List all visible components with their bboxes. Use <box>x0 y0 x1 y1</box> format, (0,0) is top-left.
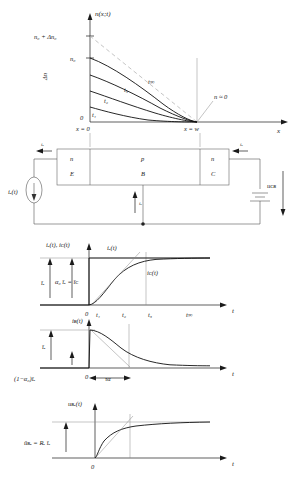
region-label-n-collector: n <box>211 155 214 162</box>
panel1-curve-label-2: t₃ <box>124 86 128 93</box>
current-source-left-arc <box>26 177 34 203</box>
panel1-curve-tinf <box>90 58 197 122</box>
figure-root: n(x;t) n₀ + Δn₀ n₀ 0 x = 0 x = w x n ≈ 0… <box>0 0 295 481</box>
collector-current-label: iₑ <box>240 142 243 147</box>
panel4-steady-label: (1−α₀)îₑ <box>14 375 35 383</box>
panel5-level-label: ûʙₑ = Rₑ îₑ <box>24 439 50 446</box>
panel5-y-axis-label: uʙₑ(t) <box>68 400 82 408</box>
terminal-label-b: B <box>141 170 145 177</box>
panel-carrier-profile: n(x;t) n₀ + Δn₀ n₀ 0 x = 0 x = w x n ≈ 0… <box>0 0 295 140</box>
panel5-x-arrow <box>220 456 227 461</box>
panel1-curve-label-1: t₂ <box>104 97 109 104</box>
panel1-ytick-label-0: n₀ + Δn₀ <box>34 33 56 40</box>
panel1-y-arrow <box>88 13 93 20</box>
panel1-y-axis-secondary-label: Δn <box>41 73 48 81</box>
panel3-curve-ic <box>89 258 210 305</box>
collector-current-arrow-head <box>232 149 239 154</box>
panel-base-current: iʙ(t) îₑ (1−α₀)îₑ τα 0 t <box>0 316 295 396</box>
panel3-ie-measure-head <box>48 258 53 265</box>
panel5-curve-ube <box>95 422 210 458</box>
panel4-y-arrow <box>87 319 92 326</box>
terminal-label-e: E <box>69 170 74 177</box>
panel4-x-axis-label: t <box>232 370 235 378</box>
panel3-curve-label-ic: iᴄ(t) <box>147 269 158 277</box>
panel1-curve-label-3: t∞ <box>148 78 155 85</box>
panel5-y-arrow <box>93 403 98 410</box>
panel1-ytick-label-2: 0 <box>80 114 84 121</box>
panel-base-emitter-voltage: uʙₑ(t) ûʙₑ = Rₑ îₑ 0 t <box>0 396 295 481</box>
panel5-x-axis-label: t <box>232 460 235 468</box>
panel1-xtick-label-0: x = 0 <box>75 125 91 132</box>
region-label-n-emitter: n <box>70 155 73 162</box>
current-source-arrow-head <box>32 194 37 201</box>
panel4-xtick-0: 0 <box>85 373 89 380</box>
voltage-label-ucb: uᴄʙ <box>267 182 276 189</box>
panel4-tau-arrow-right <box>124 376 131 381</box>
voltage-arrow-head <box>281 209 286 216</box>
panel3-x-arrow <box>220 303 227 308</box>
panel1-annotation-leader <box>197 101 213 122</box>
terminal-label-c: C <box>211 170 216 177</box>
panel1-xtick-label-1: x = w <box>183 125 200 132</box>
panel4-x-arrow <box>220 366 227 371</box>
base-current-arrow-head <box>133 191 138 198</box>
current-source-label: iₑ(t) <box>8 188 18 196</box>
panel3-ic-measure-head <box>70 258 75 265</box>
current-source-right-arc <box>34 177 42 203</box>
panel-emitter-collector-current: iₑ(t), iᴄ(t) iₑ(t) iᴄ(t) îₑ α₀ îₑ = îᴄ 0… <box>0 240 295 325</box>
panel1-ytick-label-1: n₀ <box>70 55 76 62</box>
region-label-p-base: p <box>140 155 145 162</box>
panel3-curve-label-ie: iₑ(t) <box>107 244 117 252</box>
panel4-y-axis-label: iʙ(t) <box>72 317 83 325</box>
panel3-x-axis-label: t <box>232 307 235 315</box>
base-current-label: iₑ <box>139 201 142 206</box>
panel1-curve-label-0: t₁ <box>92 111 96 118</box>
panel1-annotation: n ≈ 0 <box>214 93 228 100</box>
panel3-level-label-ie: îₑ <box>41 279 45 286</box>
base-node-dot <box>141 222 145 226</box>
panel4-tangent <box>92 331 130 367</box>
panel4-time-constant-label: τα <box>105 375 111 382</box>
panel5-xtick-0: 0 <box>91 463 95 470</box>
emitter-current-arrow-head <box>36 149 43 154</box>
panel3-y-axis-label: iₑ(t), iᴄ(t) <box>46 241 70 249</box>
panel3-y-arrow <box>87 243 92 250</box>
panel5-level-measure-head <box>64 422 69 429</box>
panel1-y-axis-label: n(x;t) <box>95 10 111 18</box>
panel4-level-label: îₑ <box>42 343 46 350</box>
panel4-peak-measure-head <box>49 330 54 337</box>
panel-transistor-circuit: n E p B n C iₑ iₑ(t) iₑ uᴄʙ iₑ <box>0 133 295 243</box>
panel3-tangent <box>93 252 140 303</box>
panel1-x-arrow <box>281 120 288 125</box>
panel3-level-label-alpha: α₀ îₑ = îᴄ <box>55 278 79 285</box>
panel4-steady-measure-head <box>70 351 75 358</box>
emitter-current-label: iₑ <box>41 142 44 147</box>
panel4-tau-arrow-left <box>89 376 96 381</box>
